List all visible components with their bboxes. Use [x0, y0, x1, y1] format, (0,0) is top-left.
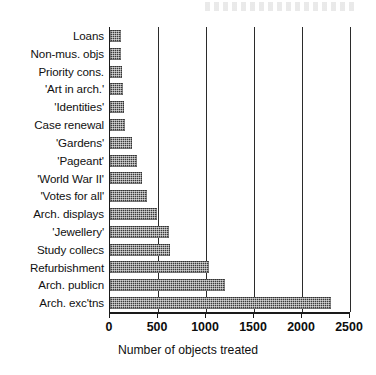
bar — [110, 48, 121, 60]
bar-row — [110, 134, 350, 152]
chart-page: LoansNon-mus. objsPriority cons.'Art in … — [0, 0, 376, 375]
x-tick-label: 500 — [147, 320, 168, 334]
category-label: Loans — [0, 27, 104, 45]
category-label: 'Art in arch.' — [0, 80, 104, 98]
category-label: 'Jewellery' — [0, 223, 104, 241]
category-label: 'Gardens' — [0, 134, 104, 152]
x-axis-line — [109, 312, 350, 314]
bar-row — [110, 241, 350, 259]
bar-row — [110, 294, 350, 312]
bar — [110, 226, 169, 238]
bar — [110, 66, 122, 78]
bar-row — [110, 223, 350, 241]
bar-row — [110, 170, 350, 188]
category-label: Arch. publicn — [0, 276, 104, 294]
bar-series — [110, 27, 350, 312]
x-tick-label: 1500 — [239, 320, 267, 334]
category-axis-labels: LoansNon-mus. objsPriority cons.'Art in … — [0, 27, 104, 312]
x-tick-1000 — [205, 312, 206, 318]
bar — [110, 244, 170, 256]
category-label: Study collecs — [0, 241, 104, 259]
x-tick-2500 — [349, 312, 350, 318]
category-label: Arch. displays — [0, 205, 104, 223]
bar — [110, 155, 137, 167]
bar — [110, 30, 121, 42]
bar-row — [110, 205, 350, 223]
plot-area — [109, 27, 350, 312]
category-label: Non-mus. objs — [0, 45, 104, 63]
bar-row — [110, 98, 350, 116]
category-label: Priority cons. — [0, 63, 104, 81]
bar — [110, 279, 225, 291]
x-tick-label: 2500 — [335, 320, 363, 334]
bar-row — [110, 152, 350, 170]
bar-row — [110, 45, 350, 63]
category-label: 'Identities' — [0, 98, 104, 116]
bar — [110, 172, 142, 184]
bar-row — [110, 187, 350, 205]
x-axis-title: Number of objects treated — [0, 343, 376, 357]
x-tick-2000 — [301, 312, 302, 318]
bar-row — [110, 276, 350, 294]
x-tick-1500 — [253, 312, 254, 318]
x-tick-label: 2000 — [287, 320, 315, 334]
bar-row — [110, 63, 350, 81]
bar — [110, 119, 125, 131]
category-label: Refurbishment — [0, 259, 104, 277]
category-label: Arch. exc'tns — [0, 294, 104, 312]
gridline-2500 — [350, 27, 351, 312]
bar — [110, 190, 147, 202]
scan-artifact — [205, 2, 355, 11]
bar — [110, 208, 157, 220]
bar-row — [110, 259, 350, 277]
bar — [110, 297, 331, 309]
bar — [110, 101, 124, 113]
x-tick-500 — [157, 312, 158, 318]
x-tick-label: 0 — [106, 320, 113, 334]
bar — [110, 261, 209, 273]
bar — [110, 83, 123, 95]
category-label: 'Pageant' — [0, 152, 104, 170]
bar-row — [110, 27, 350, 45]
category-label: 'World War II' — [0, 170, 104, 188]
bar-row — [110, 80, 350, 98]
x-tick-label: 1000 — [191, 320, 219, 334]
bar-row — [110, 116, 350, 134]
category-label: Case renewal — [0, 116, 104, 134]
category-label: 'Votes for all' — [0, 187, 104, 205]
bar — [110, 137, 132, 149]
x-tick-0 — [109, 312, 110, 318]
